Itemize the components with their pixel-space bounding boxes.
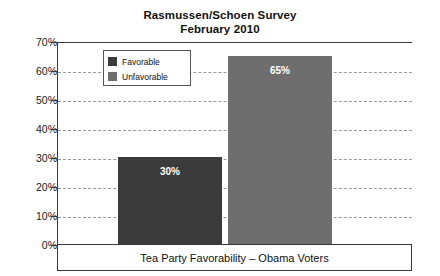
chart-title-line1: Rasmussen/Schoen Survey <box>143 9 296 21</box>
bar-chart: Rasmussen/Schoen Survey February 2010 0%… <box>0 0 440 276</box>
bar-unfavorable: 65% <box>228 56 332 245</box>
bar-value-label: 65% <box>228 65 332 76</box>
legend-item-favorable: Favorable <box>108 54 190 69</box>
bar-favorable: 30% <box>118 157 222 244</box>
y-axis: 0%10%20%30%40%50%60%70% <box>0 0 57 276</box>
bar-value-label: 30% <box>118 166 222 177</box>
legend-label-unfavorable: Unfavorable <box>122 72 168 82</box>
chart-legend: Favorable Unfavorable <box>103 50 191 86</box>
chart-title: Rasmussen/Schoen Survey February 2010 <box>0 8 440 36</box>
legend-swatch-unfavorable <box>108 72 117 81</box>
x-axis-label: Tea Party Favorability – Obama Voters <box>140 252 328 264</box>
legend-label-favorable: Favorable <box>122 57 160 67</box>
legend-swatch-favorable <box>108 57 117 66</box>
chart-title-line2: February 2010 <box>0 22 440 36</box>
x-axis-caption-box: Tea Party Favorability – Obama Voters <box>57 245 412 271</box>
legend-item-unfavorable: Unfavorable <box>108 69 190 84</box>
